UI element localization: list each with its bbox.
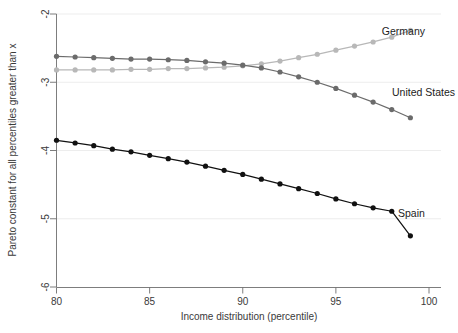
x-tick-label: 85 bbox=[144, 296, 156, 307]
data-point bbox=[240, 63, 245, 68]
data-point bbox=[184, 160, 189, 165]
data-point bbox=[371, 39, 376, 44]
data-series-group bbox=[54, 28, 413, 239]
data-point bbox=[277, 69, 282, 74]
data-point bbox=[333, 86, 338, 91]
series-united-states bbox=[54, 54, 413, 121]
data-point bbox=[110, 147, 115, 152]
data-point bbox=[54, 54, 59, 59]
gridlines bbox=[57, 14, 442, 219]
series-annotations: GermanyUnited StatesSpain bbox=[382, 25, 455, 219]
data-point bbox=[277, 58, 282, 63]
x-tick-label: 90 bbox=[237, 296, 249, 307]
x-tick-label: 80 bbox=[51, 296, 63, 307]
data-point bbox=[389, 209, 394, 214]
series-line bbox=[57, 140, 411, 236]
data-point bbox=[147, 67, 152, 72]
data-point bbox=[352, 93, 357, 98]
data-point bbox=[54, 138, 59, 143]
data-point bbox=[73, 67, 78, 72]
data-point bbox=[91, 143, 96, 148]
data-point bbox=[222, 61, 227, 66]
series-spain bbox=[54, 138, 413, 239]
data-point bbox=[277, 181, 282, 186]
data-point bbox=[240, 172, 245, 177]
data-point bbox=[296, 55, 301, 60]
data-point bbox=[352, 201, 357, 206]
data-point bbox=[371, 205, 376, 210]
data-point bbox=[333, 48, 338, 53]
data-point bbox=[259, 65, 264, 70]
series-label-germany: Germany bbox=[382, 25, 426, 37]
y-tick-label: -6 bbox=[40, 282, 51, 291]
series-germany bbox=[54, 28, 413, 73]
data-point bbox=[315, 80, 320, 85]
x-tick-label: 100 bbox=[421, 296, 438, 307]
data-point bbox=[184, 66, 189, 71]
y-tick-label: -4 bbox=[40, 146, 51, 155]
data-point bbox=[166, 156, 171, 161]
data-point bbox=[166, 66, 171, 71]
data-point bbox=[203, 59, 208, 64]
data-point bbox=[389, 107, 394, 112]
x-axis-ticks: 80859095100 bbox=[51, 288, 438, 308]
data-point bbox=[352, 43, 357, 48]
data-point bbox=[91, 67, 96, 72]
data-point bbox=[73, 54, 78, 59]
data-point bbox=[128, 149, 133, 154]
chart-canvas: -2-3-4-5-6 80859095100 GermanyUnited Sta… bbox=[0, 0, 458, 333]
series-line bbox=[57, 56, 411, 117]
data-point bbox=[147, 56, 152, 61]
data-point bbox=[222, 168, 227, 173]
data-point bbox=[408, 115, 413, 120]
data-point bbox=[315, 52, 320, 57]
data-point bbox=[110, 56, 115, 61]
data-point bbox=[203, 65, 208, 70]
data-point bbox=[128, 56, 133, 61]
y-tick-label: -2 bbox=[40, 9, 51, 18]
x-tick-label: 95 bbox=[330, 296, 342, 307]
data-point bbox=[184, 58, 189, 63]
data-point bbox=[73, 140, 78, 145]
data-point bbox=[110, 67, 115, 72]
y-axis-ticks: -2-3-4-5-6 bbox=[40, 9, 57, 291]
data-point bbox=[315, 191, 320, 196]
data-point bbox=[408, 233, 413, 238]
data-point bbox=[296, 74, 301, 79]
data-point bbox=[259, 177, 264, 182]
pareto-constant-line-chart: -2-3-4-5-6 80859095100 GermanyUnited Sta… bbox=[0, 0, 458, 333]
y-tick-label: -5 bbox=[40, 214, 51, 223]
data-point bbox=[128, 67, 133, 72]
data-point bbox=[147, 153, 152, 158]
data-point bbox=[333, 196, 338, 201]
y-tick-label: -3 bbox=[40, 77, 51, 86]
y-axis-title: Pareto constant for all percentiles grea… bbox=[7, 44, 18, 257]
x-axis-title: Income distribution (percentile) bbox=[181, 311, 318, 322]
series-label-spain: Spain bbox=[398, 207, 425, 219]
data-point bbox=[296, 186, 301, 191]
data-point bbox=[54, 67, 59, 72]
data-point bbox=[91, 55, 96, 60]
data-point bbox=[166, 57, 171, 62]
data-point bbox=[203, 164, 208, 169]
series-label-united-states: United States bbox=[392, 86, 455, 98]
data-point bbox=[371, 99, 376, 104]
